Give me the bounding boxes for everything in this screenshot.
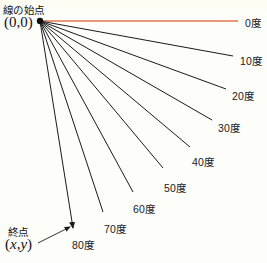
ray-70-degrees (40, 21, 103, 212)
degree-label-30: 30度 (218, 120, 240, 135)
coord-x-value: x (10, 236, 17, 252)
ray-10-degrees (40, 21, 233, 56)
ray-30-degrees (40, 21, 212, 120)
ray-group (40, 21, 238, 228)
end-point-leader-arrow (38, 227, 70, 243)
origin-point-marker (37, 18, 43, 24)
ray-40-degrees (40, 21, 190, 147)
degree-label-20: 20度 (232, 88, 254, 103)
coord-close-paren: ) (27, 236, 32, 252)
degree-label-80: 80度 (72, 237, 94, 252)
degree-label-0: 0度 (245, 15, 261, 30)
degree-label-50: 50度 (164, 180, 186, 195)
end-point-coordinate: (x,y) (5, 236, 32, 253)
degree-label-60: 60度 (133, 201, 155, 216)
degree-label-10: 10度 (240, 53, 262, 68)
degree-label-70: 70度 (104, 221, 126, 236)
start-point-coordinate: (0,0) (4, 14, 33, 31)
degree-label-40: 40度 (192, 154, 214, 169)
angle-fan-diagram: 0度10度20度30度40度50度60度70度80度 線の始点 (0,0) 終点… (0, 0, 267, 263)
